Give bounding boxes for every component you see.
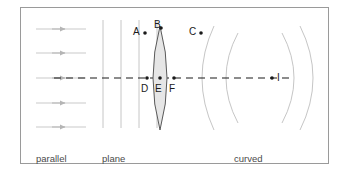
point-dot-e (158, 76, 162, 80)
point-label-b: B (154, 19, 161, 30)
plane-wavefront-lines (103, 20, 157, 128)
point-dot-d (145, 76, 149, 80)
point-label-e: E (155, 83, 162, 94)
figure-root: A B C D E F I parallel beam plane wavefr… (0, 0, 351, 175)
point-dot-c (199, 31, 203, 35)
point-label-d: D (141, 83, 148, 94)
point-label-f: F (169, 83, 175, 94)
point-dot-i (270, 76, 274, 80)
caption-curved-wavefronts-line1: curved (234, 153, 280, 164)
caption-parallel-beam-line1: parallel (36, 153, 67, 164)
caption-curved-wavefronts: curved wavefronts (234, 131, 280, 175)
caption-plane-wavefronts-line1: plane (102, 153, 148, 164)
point-label-i: I (277, 72, 280, 83)
point-label-c: C (189, 26, 196, 37)
curved-wavefront-arc (300, 26, 313, 130)
curved-wavefront-arcs (202, 26, 313, 130)
caption-parallel-beam: parallel beam (36, 131, 67, 175)
caption-plane-wavefronts: plane wavefronts (102, 131, 148, 175)
point-label-a: A (133, 26, 140, 37)
point-dot-a (143, 31, 147, 35)
point-dot-f (172, 76, 176, 80)
